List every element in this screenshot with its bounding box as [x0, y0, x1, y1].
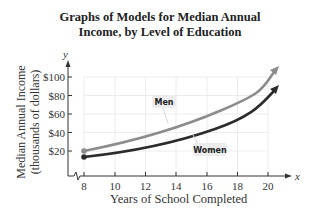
men-start-point	[81, 148, 87, 154]
men-label: Men	[152, 95, 176, 123]
x-tick-18: 18	[232, 180, 244, 192]
y-axis-symbol: y	[62, 48, 68, 60]
y-tick-80: $80	[49, 90, 66, 102]
x-axis-arrow-icon	[285, 174, 292, 179]
women-label: Women	[193, 135, 227, 156]
y-tick-20: $20	[49, 145, 66, 157]
women-label-text: Women	[193, 146, 227, 155]
men-label-text: Men	[154, 98, 173, 107]
x-tick-16: 16	[202, 180, 214, 192]
axis-break-icon	[68, 172, 286, 180]
x-tick-8: 8	[81, 180, 87, 192]
women-start-point	[81, 154, 87, 160]
y-axis: y $100 $80 $60 $40 $20	[43, 48, 72, 176]
x-tick-20: 20	[263, 180, 275, 192]
y-tick-40: $40	[49, 127, 66, 139]
x-tick-10: 10	[110, 180, 122, 192]
chart-plot: y $100 $80 $60 $40 $20 x 8 10 12 14	[0, 0, 312, 223]
y-tick-60: $60	[49, 108, 66, 120]
x-axis-symbol: x	[294, 170, 300, 182]
x-axis: x 8 10 12 14 16 18 20	[68, 170, 300, 192]
x-tick-12: 12	[140, 180, 151, 192]
y-axis-arrow-icon	[66, 60, 71, 67]
y-tick-100: $100	[43, 71, 66, 83]
x-tick-14: 14	[171, 180, 183, 192]
